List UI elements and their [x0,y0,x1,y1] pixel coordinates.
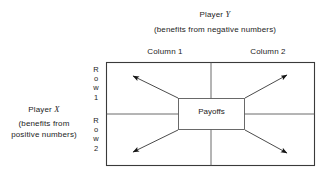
payoffs-label: Payoffs [178,107,245,116]
matrix-drawing [0,0,329,175]
game-matrix-figure: Player Y (benefits from negative numbers… [0,0,329,175]
